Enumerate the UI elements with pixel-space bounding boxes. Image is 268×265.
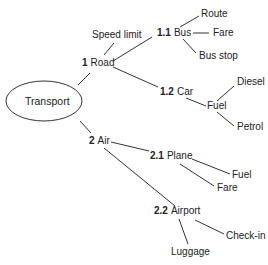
node-plane-fare: Fare (217, 182, 238, 194)
edge-transport-air (80, 121, 91, 133)
node-label: Air (98, 135, 110, 146)
edge-plane-fuel (192, 159, 230, 174)
node-check-in: Check-in (226, 230, 265, 242)
node-diesel: Diesel (237, 76, 265, 88)
node-airport: 2.2Airport (154, 205, 200, 217)
node-plane: 2.1Plane (150, 150, 192, 162)
node-number: 2 (89, 135, 95, 146)
node-label: Road (91, 57, 115, 68)
edge-bus-busstop (183, 39, 196, 53)
node-car-fuel: Fuel (207, 100, 226, 112)
edge-airport-luggage (179, 219, 188, 244)
node-label: Airport (171, 205, 200, 216)
node-car: 1.2Car (160, 86, 193, 98)
edge-car-fuel (186, 98, 206, 106)
edge-airport-checkin (195, 220, 224, 234)
edge-plane-fare (180, 164, 214, 186)
node-bus-stop: Bus stop (199, 50, 238, 62)
node-plane-fuel: Fuel (232, 169, 251, 181)
node-bus: 1.1Bus (157, 27, 191, 39)
edge-air-plane (111, 142, 149, 151)
edge-fuel-petrol (217, 112, 234, 126)
node-label: Bus (174, 27, 191, 38)
node-label: Car (177, 86, 193, 97)
node-number: 1.2 (160, 86, 174, 97)
node-number: 1.1 (157, 27, 171, 38)
node-speed-limit: Speed limit (92, 29, 141, 41)
node-bus-fare: Fare (213, 27, 234, 39)
node-number: 2.2 (154, 205, 168, 216)
node-petrol: Petrol (237, 121, 263, 133)
node-luggage: Luggage (171, 246, 210, 258)
node-road: 1Road (82, 57, 114, 69)
node-number: 1 (82, 57, 88, 68)
edge-transport-road (78, 73, 90, 85)
edge-bus-route (180, 16, 199, 27)
edge-road-car (113, 67, 158, 87)
node-air: 2Air (89, 135, 110, 147)
center-node-transport: Transport (25, 95, 70, 107)
edge-fuel-diesel (217, 86, 234, 101)
edge-road-speedlimit (104, 43, 114, 55)
node-route: Route (201, 8, 228, 20)
node-number: 2.1 (150, 150, 164, 161)
node-label: Plane (167, 150, 193, 161)
